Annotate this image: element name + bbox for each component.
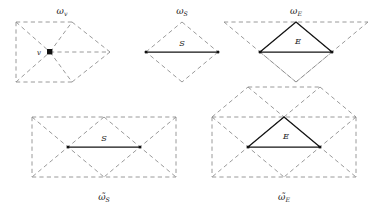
omega-tilde-S-inner-label: S	[101, 133, 107, 143]
omega-E-inner-label: E	[294, 36, 301, 46]
omega-S-diamond-lower-right	[182, 52, 218, 82]
omega-tilde-E-left-vertex	[247, 146, 250, 149]
panel-omega-tilde-E: E ω̃E	[212, 87, 356, 203]
omega-v-left-upper-diagonal	[16, 22, 50, 52]
omega-v-vertex-label: v	[37, 49, 41, 57]
omega-S-label: ωS	[176, 6, 188, 17]
omega-v-label-sub: v	[64, 10, 68, 17]
omega-tilde-S-label: ω̃S	[98, 192, 110, 203]
omega-S-diamond-lower-left	[146, 52, 182, 82]
omega-v-label: ωv	[57, 6, 68, 17]
omega-E-label-sub: E	[296, 10, 302, 17]
omega-v-left-lower-diagonal	[16, 52, 50, 82]
omega-tilde-E-band-inner-left	[248, 87, 284, 117]
panel-omega-v: v ωv	[16, 6, 110, 82]
omega-tilde-S-right-endpoint	[139, 146, 142, 149]
panel-omega-E: E ωE	[224, 6, 368, 82]
omega-tilde-E-label: ω̃E	[278, 192, 290, 203]
omega-S-right-endpoint	[217, 51, 220, 54]
omega-v-diamond-lower-left	[50, 52, 72, 82]
omega-tilde-E-band-right-diagonal	[320, 87, 356, 117]
omega-S-label-sub: S	[184, 10, 188, 17]
omega-tilde-E-band-left-diagonal	[212, 87, 248, 117]
omega-v-diamond-lower-right	[72, 52, 110, 82]
omega-tilde-S-left-endpoint	[67, 146, 70, 149]
omega-tilde-E-inner-label: E	[282, 131, 289, 141]
omega-v-vertex-dot	[47, 49, 52, 54]
omega-tilde-S-label-sub: S	[106, 196, 110, 203]
omega-S-diamond-upper-left	[146, 22, 182, 52]
panel-omega-tilde-S: S ω̃S	[32, 117, 176, 203]
omega-S-inner-label: S	[179, 38, 185, 48]
omega-S-diamond-upper-right	[182, 22, 218, 52]
omega-E-right-vertex	[331, 51, 334, 54]
omega-S-left-endpoint	[145, 51, 148, 54]
panel-omega-S: S ωS	[145, 6, 220, 82]
omega-E-label: ωE	[290, 6, 302, 17]
diagram-canvas: v ωv S ωS	[0, 0, 370, 212]
omega-v-diamond-upper-right	[72, 22, 110, 52]
omega-tilde-E-band-inner-right	[284, 87, 320, 117]
omega-tilde-E-right-vertex	[319, 146, 322, 149]
omega-E-left-vertex	[259, 51, 262, 54]
omega-tilde-E-label-sub: E	[284, 196, 290, 203]
omega-v-diamond-upper-left	[50, 22, 72, 52]
figure-root: v ωv S ωS	[0, 0, 370, 212]
